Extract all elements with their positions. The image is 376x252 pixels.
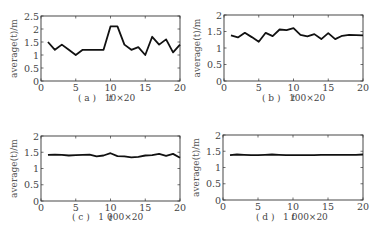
- y-axis-label: average(t)/m: [191, 138, 201, 197]
- y-tick-label: 1: [215, 162, 221, 173]
- subplot-d: 0510152000.511.52taverage(t)/m: [0, 0, 188, 126]
- x-tick-label: 10: [287, 201, 299, 212]
- x-tick-label: 5: [255, 201, 261, 212]
- y-tick-label: 0.5: [206, 178, 221, 189]
- y-tick-label: 0: [215, 195, 221, 206]
- cropped-figure-title: ▔▔ ▔▔▔ ▔▔ ▔▔▔▔▔▔ ▔: [120, 247, 270, 252]
- data-line: [230, 155, 363, 156]
- plot-frame: [223, 135, 363, 200]
- y-tick-label: 2: [215, 130, 221, 141]
- caption-d: ( d ) 1 000×20: [256, 212, 328, 222]
- x-tick-label: 15: [322, 201, 334, 212]
- caption-c: ( c ) 1 000×20: [72, 212, 143, 222]
- caption-a: ( a ) 10×20: [78, 93, 135, 103]
- y-tick-label: 1.5: [206, 146, 221, 157]
- x-tick-label: 20: [357, 201, 369, 212]
- caption-b: ( b ) 100×20: [262, 93, 325, 103]
